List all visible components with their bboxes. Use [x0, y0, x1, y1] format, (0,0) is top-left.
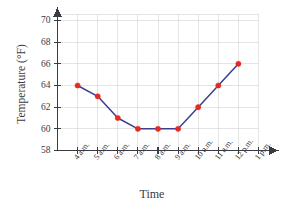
x-axis-title: Time — [140, 187, 165, 201]
y-tick-label: 68 — [41, 37, 51, 47]
y-tick-label: 62 — [41, 102, 51, 112]
axes-group — [54, 9, 277, 154]
x-axis-arrow — [270, 147, 278, 154]
y-tick-label: 58 — [41, 145, 51, 155]
y-tick-labels-group: 58606264666870 — [41, 15, 51, 155]
data-point-marker — [236, 61, 241, 66]
plot-area: 58606264666870 — [0, 0, 288, 209]
y-axis-title: Temperature (°F) — [15, 19, 27, 149]
y-tick-label: 70 — [41, 15, 51, 25]
y-tick-label: 64 — [41, 80, 51, 90]
data-point-marker — [196, 105, 201, 110]
temperature-line-chart: 58606264666870 4 a.m.5 a.m.6 a.m.7 a.m.8… — [0, 0, 288, 209]
data-point-marker — [155, 126, 160, 131]
y-tick-label: 60 — [41, 124, 51, 134]
y-axis-arrow — [54, 9, 61, 17]
data-point-marker — [216, 83, 221, 88]
data-point-marker — [75, 83, 80, 88]
data-point-marker — [176, 126, 181, 131]
data-point-marker — [115, 115, 120, 120]
data-point-marker — [135, 126, 140, 131]
y-tick-label: 66 — [41, 59, 51, 69]
x-axis-title-wrapper: Time — [0, 187, 288, 202]
data-point-marker — [95, 94, 100, 99]
